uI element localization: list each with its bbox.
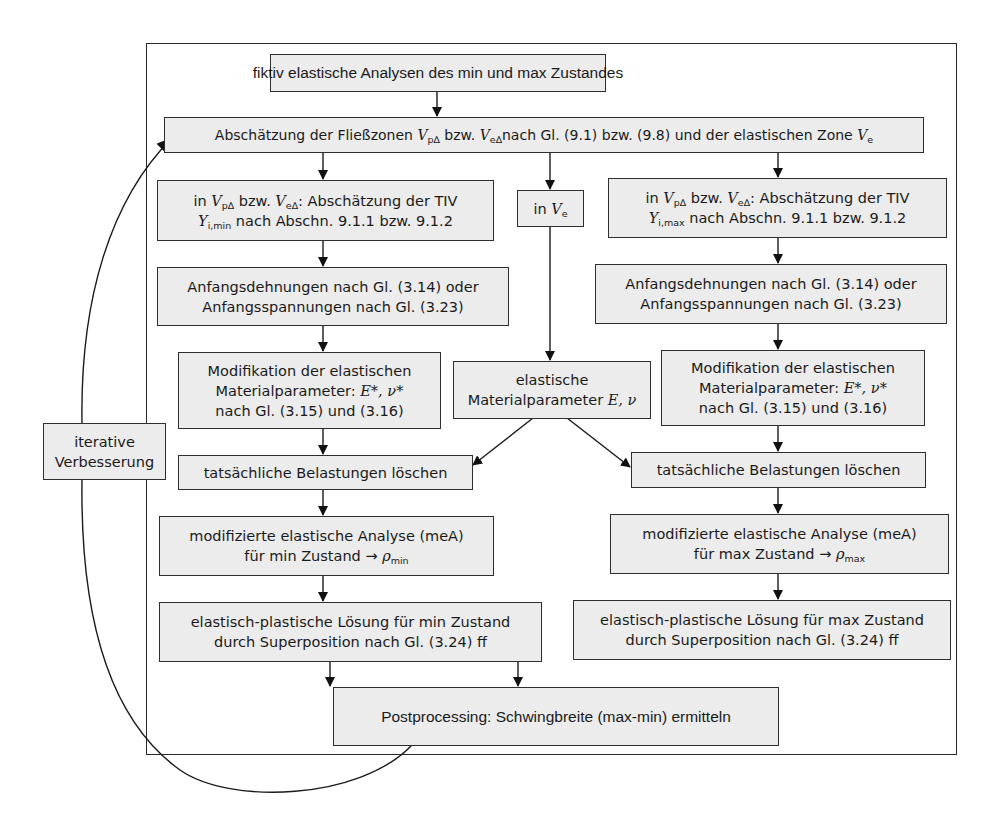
mid-elastic-box: elastische Materialparameter E, ν: [453, 361, 651, 419]
right-modify-line1: Modifikation der elastischen: [691, 358, 895, 378]
left-initial-box: Anfangsdehnungen nach Gl. (3.14) oder An…: [157, 267, 509, 326]
right-delete-text: tatsächliche Belastungen löschen: [657, 460, 901, 480]
left-modify-line2: Materialparameter: E*, ν*: [216, 381, 404, 401]
left-solution-line1: elastisch-plastische Lösung für min Zust…: [191, 612, 511, 632]
left-tiv-line1: in Vp∆ bzw. Ve∆: Abschätzung der TIV: [193, 191, 457, 211]
left-delete-text: tatsächliche Belastungen löschen: [204, 463, 448, 483]
left-tiv-box: in Vp∆ bzw. Ve∆: Abschätzung der TIV Yi,…: [157, 180, 494, 241]
iterative-line2: Verbesserung: [55, 452, 154, 472]
right-tiv-line2: Yi,max nach Abschn. 9.1.1 bzw. 9.1.2: [649, 208, 907, 228]
start-analyses-text: fiktiv elastische Analysen des min und m…: [253, 63, 623, 83]
mid-elastic-line1: elastische: [516, 370, 589, 390]
right-modify-box: Modifikation der elastischen Materialpar…: [661, 350, 925, 426]
iterative-line1: iterative: [74, 432, 135, 452]
estimate-zones-text: Abschätzung der Fließzonen Vp∆ bzw. Ve∆n…: [215, 125, 873, 145]
left-mea-line2: für min Zustand → ρmin: [244, 546, 408, 566]
postprocessing-text: Postprocessing: Schwingbreite (max-min) …: [381, 707, 731, 727]
right-modify-line3: nach Gl. (3.15) und (3.16): [699, 398, 887, 418]
right-tiv-box: in Vp∆ bzw. Ve∆: Abschätzung der TIV Yi,…: [608, 178, 947, 238]
right-mea-line2: für max Zustand → ρmax: [694, 544, 865, 564]
right-delete-box: tatsächliche Belastungen löschen: [631, 452, 926, 488]
left-mea-line1: modifizierte elastische Analyse (meA): [189, 526, 463, 546]
right-mea-line1: modifizierte elastische Analyse (meA): [642, 524, 916, 544]
right-modify-line2: Materialparameter: E*, ν*: [699, 378, 887, 398]
left-initial-line1: Anfangsdehnungen nach Gl. (3.14) oder: [187, 277, 478, 297]
right-initial-line1: Anfangsdehnungen nach Gl. (3.14) oder: [625, 274, 916, 294]
left-delete-box: tatsächliche Belastungen löschen: [178, 455, 473, 490]
start-analyses-box: fiktiv elastische Analysen des min und m…: [270, 54, 606, 92]
right-tiv-line1: in Vp∆ bzw. Ve∆: Abschätzung der TIV: [645, 188, 909, 208]
right-initial-box: Anfangsdehnungen nach Gl. (3.14) oder An…: [595, 264, 947, 324]
right-initial-line2: Anfangsspannungen nach Gl. (3.23): [640, 294, 901, 314]
estimate-zones-box: Abschätzung der Fließzonen Vp∆ bzw. Ve∆n…: [164, 117, 924, 153]
left-modify-line3: nach Gl. (3.15) und (3.16): [215, 401, 403, 421]
right-solution-box: elastisch-plastische Lösung für max Zust…: [573, 600, 951, 660]
left-modify-line1: Modifikation der elastischen: [208, 361, 412, 381]
right-solution-line2: durch Superposition nach Gl. (3.24) ff: [626, 630, 899, 650]
iterative-improvement-box: iterative Verbesserung: [43, 423, 166, 480]
left-mea-box: modifizierte elastische Analyse (meA) fü…: [159, 516, 494, 576]
right-solution-line1: elastisch-plastische Lösung für max Zust…: [600, 610, 924, 630]
right-mea-box: modifizierte elastische Analyse (meA) fü…: [610, 514, 949, 574]
left-initial-line2: Anfangsspannungen nach Gl. (3.23): [202, 297, 463, 317]
mid-elastic-line2: Materialparameter E, ν: [468, 390, 637, 410]
left-modify-box: Modifikation der elastischen Materialpar…: [178, 352, 441, 429]
mid-ve-text: in Ve: [533, 199, 567, 219]
postprocessing-box: Postprocessing: Schwingbreite (max-min) …: [333, 687, 779, 746]
mid-ve-box: in Ve: [517, 190, 584, 227]
left-tiv-line2: Yi,min nach Abschn. 9.1.1 bzw. 9.1.2: [198, 211, 453, 231]
left-solution-box: elastisch-plastische Lösung für min Zust…: [159, 602, 542, 662]
left-solution-line2: durch Superposition nach Gl. (3.24) ff: [214, 632, 487, 652]
